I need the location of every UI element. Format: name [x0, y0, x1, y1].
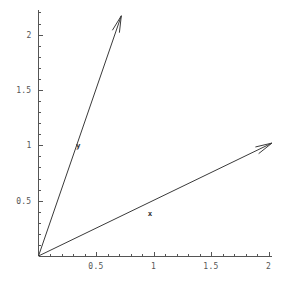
- y-axis-tick-label: 1.5: [16, 85, 31, 94]
- ticks-group: [39, 13, 270, 257]
- plot-canvas: [0, 0, 284, 284]
- y-axis-tick-label: 1: [26, 141, 31, 150]
- x-axis-tick-label: 1: [151, 262, 156, 271]
- axes-group: [39, 10, 273, 256]
- vector-shaft-y: [39, 16, 122, 256]
- vector-label-x: x: [148, 208, 153, 217]
- y-axis-tick-label: 0.5: [16, 196, 31, 205]
- vector-label-y: y: [76, 141, 81, 150]
- x-axis-tick-label: 0.5: [88, 262, 103, 271]
- y-axis-tick-label: 2: [26, 30, 31, 39]
- vector-plot: 0.511.520.511.52 xy: [0, 0, 284, 284]
- vector-arrowhead-x: [255, 143, 272, 154]
- x-axis-tick-label: 2: [266, 262, 271, 271]
- vector-shaft-x: [39, 143, 272, 256]
- x-axis-tick-label: 1.5: [203, 262, 218, 271]
- vectors-group: [39, 16, 272, 256]
